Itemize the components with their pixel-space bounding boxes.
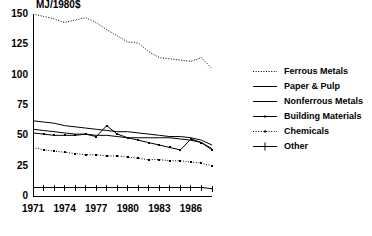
legend-item: Nonferrous Metals (252, 94, 370, 109)
legend-item: Chemicals (252, 124, 370, 139)
chart-title: MJ/1980$ (36, 0, 80, 10)
y-axis-tick-label: 100 (0, 69, 28, 80)
legend-swatch-icon (252, 81, 278, 92)
x-axis-tick-label: 1986 (171, 203, 211, 214)
legend-label: Paper & Pulp (284, 81, 340, 92)
legend-label: Ferrous Metals (284, 66, 348, 77)
legend-swatch-icon (252, 66, 278, 77)
legend-label: Building Materials (284, 111, 362, 122)
y-axis-tick-label: 75 (0, 99, 28, 110)
legend-swatch-icon (252, 126, 278, 137)
chart-legend: Ferrous MetalsPaper & PulpNonferrous Met… (252, 64, 370, 154)
legend-label: Nonferrous Metals (284, 96, 363, 107)
y-axis-tick-label: 150 (0, 8, 28, 19)
legend-item: Ferrous Metals (252, 64, 370, 79)
legend-swatch-icon (252, 96, 278, 107)
chart-figure: MJ/1980$ 0255075100125150 19711974197719… (0, 0, 372, 236)
legend-label: Other (284, 141, 308, 152)
legend-swatch-icon (252, 141, 278, 152)
legend-item: Paper & Pulp (252, 79, 370, 94)
y-axis-tick-label: 25 (0, 160, 28, 171)
y-axis-tick-label: 0 (0, 190, 28, 201)
legend-item: Other (252, 139, 370, 154)
legend-label: Chemicals (284, 126, 329, 137)
legend-item: Building Materials (252, 109, 370, 124)
legend-swatch-icon (252, 111, 278, 122)
plot-area (33, 14, 212, 196)
y-axis-tick-label: 125 (0, 38, 28, 49)
y-axis-tick-label: 50 (0, 129, 28, 140)
